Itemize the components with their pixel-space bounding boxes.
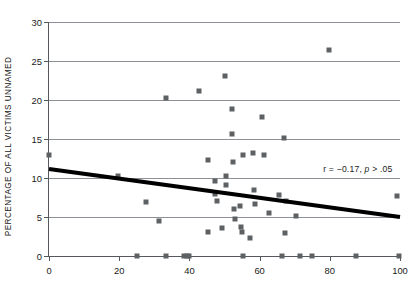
x-tick-label: 40 xyxy=(184,265,194,276)
x-tick-label: 80 xyxy=(325,265,335,276)
y-tick-label: 15 xyxy=(32,134,42,145)
x-tick-label: 20 xyxy=(114,265,124,276)
scatter-chart: PERCENTAGE OF ALL VICTIMS UNNAMED 051015… xyxy=(0,0,417,293)
y-axis-title: PERCENTAGE OF ALL VICTIMS UNNAMED xyxy=(0,0,16,293)
y-tick-label: 5 xyxy=(37,212,42,223)
plot-area: 051015202530 020406080100 r = −0.17, p >… xyxy=(48,22,400,257)
x-tick-mark xyxy=(330,256,331,261)
trend-line xyxy=(49,22,400,256)
y-tick-label: 20 xyxy=(32,95,42,106)
x-tick-mark xyxy=(260,256,261,261)
x-tick-label: 0 xyxy=(46,265,51,276)
annotation-r-text: r = −0.17, xyxy=(323,164,364,174)
x-tick-mark xyxy=(49,256,50,261)
annotation-p-text: > .05 xyxy=(370,164,393,174)
x-tick-mark xyxy=(119,256,120,261)
x-tick-label: 100 xyxy=(392,265,408,276)
x-tick-label: 60 xyxy=(254,265,264,276)
y-tick-label: 30 xyxy=(32,17,42,28)
y-tick-label: 0 xyxy=(37,251,42,262)
correlation-annotation: r = −0.17, p > .05 xyxy=(323,164,392,174)
y-tick-label: 25 xyxy=(32,56,42,67)
y-tick-label: 10 xyxy=(32,173,42,184)
